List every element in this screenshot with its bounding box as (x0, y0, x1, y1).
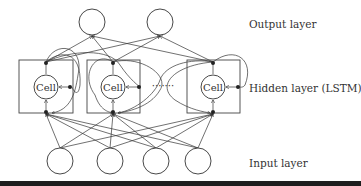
forget-gate-icon (236, 85, 240, 89)
input-node (185, 148, 211, 174)
input-node (143, 148, 169, 174)
forget-gate-icon (68, 85, 72, 89)
input-node (47, 148, 73, 174)
output-node (79, 9, 105, 35)
input-to-hidden-connections (46, 114, 213, 148)
output-layer-nodes (79, 9, 173, 35)
input-gate-icon (211, 110, 215, 114)
output-layer-label: Output layer (249, 18, 317, 30)
cell-label: Cell (203, 82, 223, 93)
output-gate-icon (44, 61, 48, 65)
lstm-block-2: Cell (87, 60, 141, 114)
cell-label: Cell (36, 82, 56, 93)
hidden-layer-label: Hidden layer (LSTM) (249, 82, 361, 94)
output-gate-icon (211, 61, 215, 65)
ellipsis: ······· (152, 80, 174, 91)
input-node (97, 148, 123, 174)
input-gate-icon (111, 110, 115, 114)
hidden-to-output-connections (46, 36, 213, 62)
input-layer-nodes (47, 148, 211, 174)
input-gate-icon (44, 110, 48, 114)
lstm-block-3: Cell (187, 60, 240, 114)
output-gate-icon (111, 61, 115, 65)
lstm-block-1: Cell (19, 60, 73, 114)
input-layer-label: Input layer (249, 157, 309, 169)
cell-label: Cell (103, 82, 123, 93)
forget-gate-icon (137, 85, 141, 89)
bottom-border-bar (0, 181, 361, 186)
output-node (147, 9, 173, 35)
lstm-network-diagram: Cell Cell ······· Cell (0, 0, 361, 186)
